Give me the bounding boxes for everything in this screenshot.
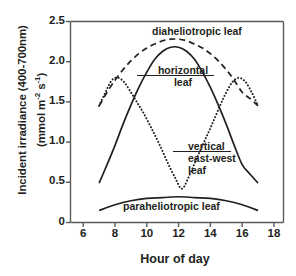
annotation-horizontal-leaf: horizontal leaf — [152, 64, 214, 88]
axis-frame — [71, 22, 284, 223]
axis-ticks — [66, 22, 274, 228]
annotation-paraheliotropic-leaf: paraheliotropic leaf — [123, 200, 220, 212]
annotation-diaheliotropic-leaf: diaheliotropic leaf — [152, 25, 242, 37]
plot-area — [0, 0, 296, 276]
annotation-vertical-leaf-line2: east-west — [188, 152, 236, 164]
annotation-vertical-leaf-line3: leaf — [188, 164, 236, 176]
annotation-horizontal-leaf-line2: leaf — [152, 76, 214, 88]
annotation-vertical-east-west-leaf: vertical east-west leaf — [188, 140, 236, 176]
annotation-vertical-leaf-line1: vertical — [188, 140, 236, 152]
chart-figure: Incident irradiance (400-700nm) (mmol m-… — [0, 0, 296, 276]
annotation-horizontal-leaf-line1: horizontal — [152, 64, 214, 76]
